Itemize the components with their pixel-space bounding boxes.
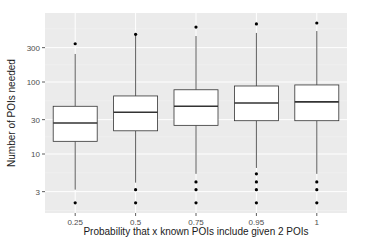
- x-tick-label: 1: [315, 218, 320, 227]
- outlier-point: [255, 180, 258, 183]
- outlier-point: [255, 188, 258, 191]
- outlier-point: [194, 180, 197, 183]
- y-tick-label: 300: [27, 44, 41, 53]
- iqr-box: [295, 85, 339, 121]
- outlier-point: [194, 188, 197, 191]
- outlier-point: [194, 25, 197, 28]
- outlier-point: [134, 201, 137, 204]
- x-tick-label: 0.25: [67, 218, 83, 227]
- outlier-point: [315, 180, 318, 183]
- iqr-box: [174, 90, 218, 126]
- outlier-point: [255, 201, 258, 204]
- outlier-point: [255, 172, 258, 175]
- x-axis-title: Probability that x known POIs include gi…: [83, 226, 308, 237]
- outlier-point: [315, 21, 318, 24]
- iqr-box: [114, 96, 158, 131]
- outlier-point: [315, 201, 318, 204]
- outlier-point: [134, 33, 137, 36]
- outlier-point: [315, 188, 318, 191]
- outlier-point: [194, 201, 197, 204]
- boxplot-chart: 31030100300 0.250.50.750.951 Probability…: [0, 0, 365, 247]
- y-tick-label: 3: [36, 188, 41, 197]
- x-axis-ticks: 0.250.50.750.951: [67, 213, 319, 227]
- outlier-point: [74, 42, 77, 45]
- outlier-point: [134, 188, 137, 191]
- y-axis-ticks: 31030100300: [27, 44, 45, 197]
- y-axis-title: Number of POIs needed: [6, 59, 17, 167]
- y-tick-label: 30: [31, 116, 40, 125]
- y-tick-label: 10: [31, 150, 40, 159]
- outlier-point: [255, 22, 258, 25]
- y-tick-label: 100: [27, 78, 41, 87]
- iqr-box: [53, 106, 97, 141]
- outlier-point: [74, 201, 77, 204]
